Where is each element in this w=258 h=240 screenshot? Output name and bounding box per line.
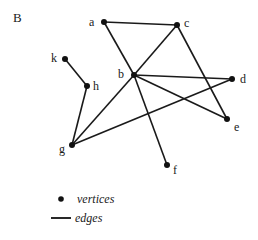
panel-label: B (13, 10, 22, 26)
legend-vertices-label: vertices (77, 192, 114, 207)
vertex-label-g: g (59, 143, 65, 155)
vertex-label-k: k (51, 52, 57, 64)
vertex-label-a: a (89, 16, 94, 28)
vertex-label-h: h (93, 80, 99, 92)
vertex-label-d: d (240, 73, 246, 85)
vertex-label-f: f (173, 164, 177, 176)
edge-c-b (134, 25, 177, 75)
legend-vertex-icon (58, 196, 64, 202)
vertex-label-e: e (234, 121, 239, 133)
edge-b-d (134, 75, 232, 79)
vertex-d (229, 76, 235, 82)
vertex-e (224, 116, 230, 122)
edge-a-c (104, 22, 177, 25)
vertex-h (84, 83, 90, 89)
edges-group (65, 22, 232, 165)
vertex-label-c: c (184, 17, 189, 29)
vertex-c (174, 22, 180, 28)
graph-canvas (0, 0, 258, 240)
vertex-a (101, 19, 107, 25)
vertex-label-b: b (118, 68, 124, 80)
edge-c-e (177, 25, 227, 119)
vertex-k (62, 56, 68, 62)
edge-h-k (65, 59, 87, 86)
vertex-g (69, 142, 75, 148)
vertex-b (131, 72, 137, 78)
legend-edges-label: edges (75, 211, 102, 226)
vertex-f (164, 162, 170, 168)
vertices-group (62, 19, 235, 168)
